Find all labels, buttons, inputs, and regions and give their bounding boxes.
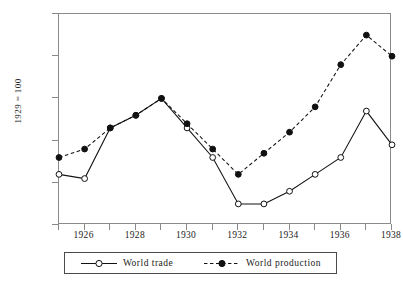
x-axis-tick-mark <box>314 224 315 230</box>
data-point-marker <box>82 176 88 182</box>
data-point-marker <box>210 146 216 152</box>
legend-item-world-production: World production <box>203 258 321 269</box>
data-point-marker <box>312 171 318 177</box>
data-point-marker <box>287 129 293 135</box>
y-axis-title: 1929 = 100 <box>13 41 23 161</box>
x-axis-tick-label: 1926 <box>64 230 104 240</box>
data-point-marker <box>338 62 344 68</box>
x-axis-tick-label: 1932 <box>217 230 257 240</box>
x-axis-tick-mark <box>340 224 341 230</box>
legend-item-world-trade: World trade <box>80 258 173 269</box>
legend-label-world-production: World production <box>246 258 321 268</box>
x-axis-tick-label: 1938 <box>371 230 403 240</box>
series-line <box>59 98 392 203</box>
data-point-marker <box>56 155 62 161</box>
x-axis-tick-mark <box>186 224 187 230</box>
data-point-marker <box>235 201 241 207</box>
chart-plot-svg <box>59 14 392 225</box>
x-axis-tick-label: 1928 <box>115 230 155 240</box>
series-line <box>59 35 392 174</box>
x-axis-tick-label: 1930 <box>166 230 206 240</box>
series-world-production <box>56 32 395 177</box>
x-axis-tick-mark <box>365 224 366 230</box>
data-point-marker <box>210 155 216 161</box>
data-point-marker <box>261 150 267 156</box>
legend-swatch-dashed-filled-circle-icon <box>203 258 241 269</box>
x-axis-tick-mark <box>84 224 85 230</box>
x-axis-tick-mark <box>212 224 213 230</box>
x-axis-tick-mark <box>391 224 392 230</box>
chart-figure: 1929 = 100 708090100110120 1926192819301… <box>0 0 403 281</box>
data-point-marker <box>312 104 318 110</box>
data-point-marker <box>363 108 369 114</box>
data-point-marker <box>107 125 113 131</box>
x-axis-tick-mark <box>237 224 238 230</box>
legend-swatch-solid-open-circle-icon <box>80 258 118 269</box>
x-axis-tick-mark <box>58 224 59 230</box>
data-point-marker <box>235 171 241 177</box>
data-point-marker <box>56 171 62 177</box>
data-point-marker <box>389 142 395 148</box>
data-point-marker <box>338 155 344 161</box>
data-point-marker <box>389 53 395 59</box>
x-axis-tick-label: 1934 <box>269 230 309 240</box>
data-point-marker <box>261 201 267 207</box>
data-point-marker <box>363 32 369 38</box>
series-world-trade <box>56 96 395 207</box>
x-axis-tick-mark <box>263 224 264 230</box>
x-axis-tick-mark <box>109 224 110 230</box>
data-point-marker <box>82 146 88 152</box>
x-axis-tick-mark <box>160 224 161 230</box>
x-axis-tick-mark <box>135 224 136 230</box>
x-axis-tick-label: 1936 <box>320 230 360 240</box>
legend-label-world-trade: World trade <box>123 258 173 268</box>
data-point-marker <box>159 96 165 102</box>
x-axis-tick-mark <box>289 224 290 230</box>
chart-legend: World trade World production <box>64 252 337 274</box>
plot-area <box>58 13 391 224</box>
data-point-marker <box>133 112 139 118</box>
data-point-marker <box>287 188 293 194</box>
data-point-marker <box>184 121 190 127</box>
